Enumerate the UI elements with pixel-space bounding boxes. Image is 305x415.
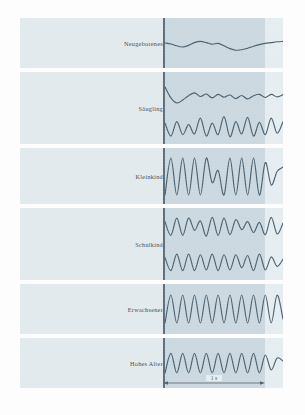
waveform-panel-erwachsener: Erwachsener [20, 284, 283, 334]
waveform-trace-erwachsener [163, 284, 283, 334]
waveform-panel-schulkind: Schulkind [20, 208, 283, 280]
waveform-panel-neugeborenes: Neugeborenes [20, 18, 283, 68]
waveform-panel-kleinkind: Kleinkind [20, 148, 283, 204]
waveform-trace-neugeborenes [163, 18, 283, 68]
panel-label-neugeborenes: Neugeborenes [124, 40, 163, 47]
panel-label-schulkind: Schulkind [135, 241, 163, 248]
scale-bar-label: 1 s [206, 375, 222, 381]
waveform-trace-saeugling [163, 72, 283, 144]
panel-label-saeugling: Säugling [139, 105, 163, 112]
panel-label-hohes-alter: Hohes Alter [130, 360, 163, 367]
panel-label-kleinkind: Kleinkind [136, 173, 163, 180]
waveform-trace-schulkind [163, 208, 283, 280]
waveform-panel-saeugling: Säugling [20, 72, 283, 144]
respiration-waveform-figure: Neugeborenes Säugling Kleinkind [0, 0, 305, 415]
time-scale-bar: 1 s [163, 376, 265, 390]
waveform-trace-kleinkind [163, 148, 283, 204]
panel-label-erwachsener: Erwachsener [128, 306, 163, 313]
